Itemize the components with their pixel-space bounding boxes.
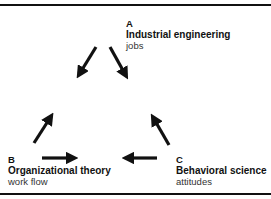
node-a: A Industrial engineering jobs (126, 18, 230, 51)
node-a-title: Industrial engineering (126, 29, 230, 40)
arrow-b-to-a (34, 118, 50, 143)
node-b: B Organizational theory work flow (8, 154, 111, 187)
node-b-subtitle: work flow (8, 176, 111, 187)
node-c-subtitle: attitudes (176, 176, 267, 187)
node-c-letter: C (176, 154, 267, 165)
node-c-title: Behavioral science (176, 165, 267, 176)
node-b-letter: B (8, 154, 111, 165)
arrow-c-to-a (154, 119, 169, 145)
node-c: C Behavioral science attitudes (176, 154, 267, 187)
node-a-letter: A (126, 18, 230, 29)
node-b-title: Organizational theory (8, 165, 111, 176)
node-a-subtitle: jobs (126, 40, 230, 51)
arrow-a-to-c (110, 47, 125, 74)
arrow-a-to-b (80, 47, 96, 73)
